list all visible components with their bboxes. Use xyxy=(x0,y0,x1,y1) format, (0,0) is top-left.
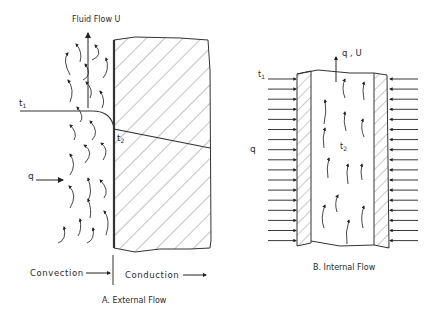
conduction-label: Conduction xyxy=(125,271,179,280)
panel-b-internal-flow xyxy=(268,57,418,248)
q-u-label: q , U xyxy=(342,49,362,58)
fluid-flow-label: Fluid Flow U xyxy=(72,16,120,24)
right-wall xyxy=(374,73,389,248)
convection-eddies xyxy=(58,44,108,243)
t2-subscript: 2 xyxy=(343,145,347,152)
caption-b: B. Internal Flow xyxy=(313,264,375,272)
solid-wall xyxy=(114,37,211,252)
t2-subscript: 2 xyxy=(121,137,125,144)
caption-a: A. External Flow xyxy=(102,297,166,305)
t2-label-a: t2 xyxy=(117,134,124,144)
panel-a-external-flow xyxy=(20,33,211,285)
t1-subscript: 1 xyxy=(23,102,27,109)
t1-label-a: t1 xyxy=(19,99,26,109)
t1-subscript: 1 xyxy=(261,73,265,80)
left-heat-arrows xyxy=(268,79,296,241)
t2-label-b: t2 xyxy=(340,143,347,152)
heat-transfer-diagram: Fluid Flow U t1 t2 q Convection Conducti… xyxy=(0,0,438,318)
q-label-a: q xyxy=(28,172,34,181)
channel-flow-lines xyxy=(322,79,364,244)
q-label-b: q xyxy=(250,145,256,154)
left-wall xyxy=(297,71,311,246)
convection-label: Convection xyxy=(30,269,84,278)
t1-label-b: t1 xyxy=(258,71,265,80)
channel-bottom xyxy=(311,241,374,246)
right-heat-arrows xyxy=(390,79,418,241)
